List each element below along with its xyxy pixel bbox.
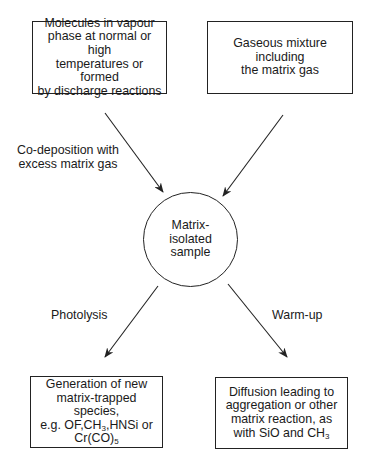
subscript: 5 [114, 437, 118, 446]
arrow-sample-to-photolysis-result [105, 286, 158, 357]
edge-label-line: Co-deposition with [17, 144, 119, 158]
node-text-line: sample [169, 246, 212, 260]
node-text-line: with SiO and CH3 [226, 427, 338, 441]
text-fragment: ,HNSi or [106, 418, 153, 432]
node-warmup-result: Diffusion leading to aggregation or othe… [215, 377, 348, 449]
node-photolysis-result: Generation of new matrix-trapped species… [30, 376, 163, 448]
edge-label-line: excess matrix gas [17, 158, 119, 172]
node-source-molecules: Molecules in vapour phase at normal or h… [32, 21, 167, 94]
node-text-line: temperatures or formed [37, 58, 162, 85]
text-fragment: e.g. OF,CH [40, 418, 101, 432]
node-matrix-gas: Gaseous mixture including the matrix gas [207, 21, 353, 94]
node-text-line: Generation of new [35, 378, 158, 392]
node-text-line: matrix reaction, as [226, 413, 338, 427]
node-text-line: e.g. OF,CH3,HNSi or [35, 419, 158, 433]
text-fragment: Cr(CO) [74, 431, 114, 445]
node-text-line: the matrix gas [212, 64, 348, 78]
node-text-line: Gaseous mixture including [212, 37, 348, 64]
edge-label-codeposition: Co-deposition with excess matrix gas [17, 144, 119, 171]
edge-label-text: Photolysis [51, 308, 107, 322]
node-text-line: phase at normal or high [37, 30, 162, 57]
node-text-line: Matrix- [169, 219, 212, 233]
node-text-line: by discharge reactions [37, 85, 162, 99]
arrow-gas-to-sample [223, 115, 283, 196]
node-text-line: matrix-trapped species, [35, 392, 158, 419]
node-text-line: Molecules in vapour [37, 17, 162, 31]
edge-label-text: Warm-up [272, 308, 322, 322]
node-matrix-isolated-sample: Matrix- isolated sample [143, 192, 238, 287]
node-text-line: Cr(CO)5 [35, 432, 158, 446]
node-text-line: Diffusion leading to [226, 386, 338, 400]
subscript: 3 [325, 432, 329, 441]
node-text-line: isolated [169, 233, 212, 247]
text-fragment: with SiO and CH [233, 426, 325, 440]
edge-label-photolysis: Photolysis [51, 309, 107, 323]
node-text-line: aggregation or other [226, 399, 338, 413]
edge-label-warmup: Warm-up [272, 309, 322, 323]
